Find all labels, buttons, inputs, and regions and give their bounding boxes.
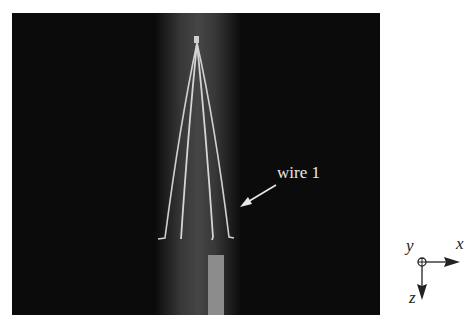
x-axis-label: x bbox=[456, 234, 464, 254]
arrow-head-icon bbox=[240, 197, 252, 207]
y-axis-label: y bbox=[406, 236, 414, 256]
axis-triad: y x z bbox=[398, 236, 474, 312]
simulation-image-panel: wire 1 bbox=[12, 13, 380, 315]
wire-left-inner bbox=[181, 43, 197, 239]
wire-1-label: wire 1 bbox=[277, 163, 320, 183]
wire-right-inner bbox=[197, 43, 213, 240]
wire-scene bbox=[12, 13, 380, 315]
wire-1 bbox=[197, 43, 234, 238]
wire-left-outer bbox=[158, 43, 197, 239]
annotation-arrow-line bbox=[246, 185, 276, 203]
z-arrow-head-icon bbox=[417, 284, 427, 300]
z-axis-label: z bbox=[409, 288, 416, 308]
rod bbox=[208, 255, 224, 315]
x-arrow-head-icon bbox=[444, 257, 460, 267]
tip-bead bbox=[194, 36, 199, 43]
